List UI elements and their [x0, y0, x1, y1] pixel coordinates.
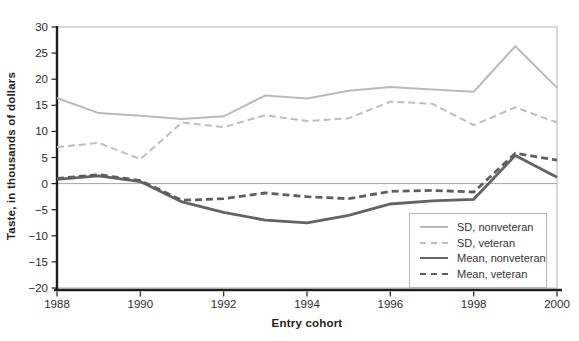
- x-tick-label: 1994: [294, 298, 320, 310]
- series-line-sd-veteran: [57, 102, 557, 160]
- chart-figure: Taste, in thousands of dollars 302520151…: [0, 0, 579, 341]
- y-tick-label: 5: [42, 152, 48, 164]
- legend-item: Mean, veteran: [420, 267, 538, 281]
- y-tick-label: −10: [28, 230, 48, 242]
- legend-line-sample: [420, 257, 448, 259]
- x-tick-label: 1998: [461, 298, 487, 310]
- y-tick-label: −15: [28, 256, 48, 268]
- plot-svg: 302520151050−5−10−15−2019881990199219941…: [0, 0, 579, 341]
- legend-item-label: Mean, nonveteran: [457, 252, 546, 264]
- x-tick-label: 1988: [44, 298, 70, 310]
- x-tick-label: 2000: [544, 298, 570, 310]
- y-tick-label: 15: [35, 99, 48, 111]
- legend-item: Mean, nonveteran: [420, 251, 538, 265]
- legend-item-label: Mean, veteran: [457, 268, 527, 280]
- legend-item-label: SD, nonveteran: [457, 221, 533, 233]
- x-tick-label: 1990: [128, 298, 154, 310]
- legend-line-sample: [420, 226, 448, 228]
- y-tick-label: 30: [35, 21, 48, 33]
- legend-item-label: SD, veteran: [457, 237, 515, 249]
- y-tick-label: −5: [35, 204, 48, 216]
- legend: SD, nonveteran SD, veteran Mean, nonvete…: [409, 213, 547, 288]
- x-tick-label: 1992: [211, 298, 237, 310]
- y-tick-label: −20: [28, 282, 48, 294]
- series-line-mean-veteran: [57, 153, 557, 200]
- legend-line-sample: [420, 242, 448, 244]
- y-tick-label: 20: [35, 73, 48, 85]
- x-tick-label: 1996: [378, 298, 404, 310]
- series-line-sd-nonveteran: [57, 46, 557, 119]
- y-axis-title: Taste, in thousands of dollars: [5, 72, 17, 240]
- legend-item: SD, veteran: [420, 236, 538, 250]
- x-axis-title: Entry cohort: [272, 317, 343, 329]
- y-tick-label: 25: [35, 47, 48, 59]
- legend-line-sample: [420, 273, 448, 275]
- legend-item: SD, nonveteran: [420, 220, 538, 234]
- y-tick-label: 10: [35, 125, 48, 137]
- y-tick-label: 0: [42, 178, 48, 190]
